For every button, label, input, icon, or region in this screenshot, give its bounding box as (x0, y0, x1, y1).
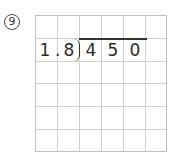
grid-line (36, 129, 166, 130)
divisor-digit: 1 (34, 39, 56, 62)
problem-number-circle: 9 (4, 14, 20, 30)
dividend-digit: 5 (102, 39, 124, 62)
problem-number: 9 (9, 15, 16, 28)
dividend-digit: 0 (124, 39, 146, 62)
long-division-grid: 1 . 8 4 5 0 (35, 15, 167, 152)
grid-line (36, 83, 166, 84)
dividend-digit: 4 (80, 39, 102, 62)
grid-line (36, 106, 166, 107)
